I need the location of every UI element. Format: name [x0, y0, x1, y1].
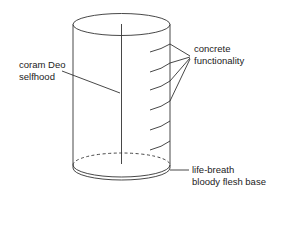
functionality-label: concrete functionality	[194, 43, 244, 66]
selfhood-label: coram Deo selfhood	[19, 59, 65, 82]
base-plate	[73, 165, 170, 180]
base-label-line1: life-breath	[192, 164, 266, 176]
selfhood-label-line1: coram Deo	[19, 59, 65, 71]
ring-arc	[150, 44, 170, 52]
leader-line	[62, 71, 120, 93]
ring-arc	[150, 121, 170, 130]
ring-arc	[150, 141, 170, 150]
base-label: life-breath bloody flesh base	[192, 164, 266, 187]
cylinder-bottom-front	[73, 165, 170, 177]
ring-arc	[150, 63, 170, 72]
leader-line	[170, 59, 190, 101]
selfhood-label-line2: selfhood	[19, 71, 65, 83]
leader-line	[170, 44, 190, 56]
functionality-label-line2: functionality	[194, 55, 244, 67]
functionality-label-line1: concrete	[194, 43, 244, 55]
ring-arc	[150, 101, 170, 110]
base-label-line2: bloody flesh base	[192, 176, 266, 188]
ring-arc	[150, 81, 170, 90]
leader-line	[170, 58, 190, 81]
